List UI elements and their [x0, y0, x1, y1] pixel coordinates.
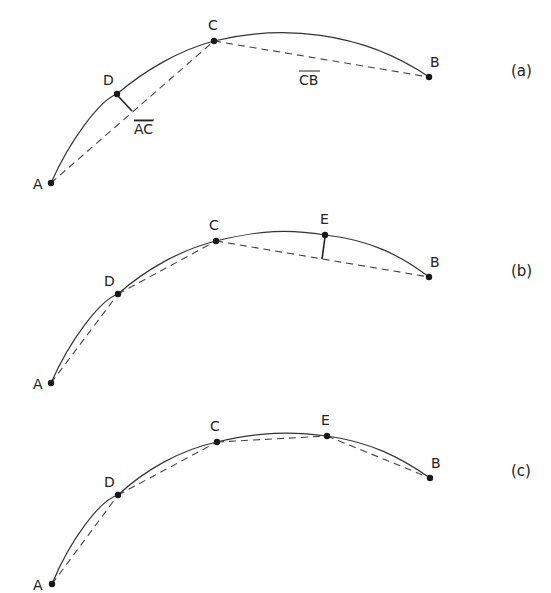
label-c: C [208, 17, 218, 33]
chord-approximation-diagram: A D C B AC CB (a) A D C E B (b) [0, 0, 551, 593]
panel-b: A D C E B (b) [33, 211, 532, 392]
chord-eb [327, 436, 430, 478]
label-b: B [431, 455, 441, 471]
chord-ac [51, 41, 214, 183]
point-e [324, 433, 330, 439]
panel-c: A D C E B (c) [33, 412, 531, 593]
point-d [114, 91, 120, 97]
chord-cb [214, 41, 429, 77]
point-c [213, 238, 219, 244]
label-b: B [430, 254, 440, 270]
panel-tag-a: (a) [511, 62, 532, 80]
chord-ad [51, 294, 118, 383]
point-a [48, 380, 54, 386]
label-c: C [210, 418, 220, 434]
point-b [426, 74, 432, 80]
point-b [427, 475, 433, 481]
label-chord-ac: AC [134, 121, 153, 137]
label-d: D [103, 72, 114, 88]
label-a: A [33, 376, 43, 392]
point-d [115, 291, 121, 297]
chord-dc [118, 241, 216, 294]
label-a: A [33, 176, 43, 192]
point-a [49, 581, 55, 587]
label-e: E [321, 412, 330, 428]
chord-ad [52, 495, 118, 584]
deviation-marker [322, 237, 325, 259]
label-a: A [33, 577, 43, 593]
point-d [115, 492, 121, 498]
deviation-marker [118, 96, 132, 111]
point-c [214, 439, 220, 445]
point-c [211, 38, 217, 44]
label-d: D [104, 273, 115, 289]
arc-curve [51, 231, 429, 383]
panel-a: A D C B AC CB (a) [33, 17, 532, 192]
point-b [426, 274, 432, 280]
arc-curve [52, 433, 430, 584]
label-b: B [430, 54, 440, 70]
label-chord-cb: CB [299, 72, 318, 88]
point-e [322, 232, 328, 238]
panel-tag-c: (c) [511, 462, 531, 480]
label-c: C [209, 217, 219, 233]
label-e: E [320, 211, 329, 227]
label-d: D [104, 474, 115, 490]
chord-dc [118, 442, 217, 495]
panel-tag-b: (b) [511, 262, 532, 280]
arc-curve [51, 33, 429, 183]
point-a [48, 180, 54, 186]
